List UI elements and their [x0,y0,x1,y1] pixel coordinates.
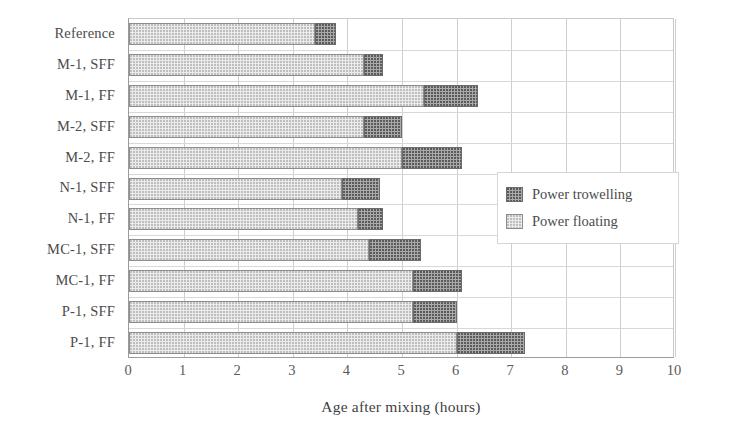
category-label: M-1, SFF [0,49,122,80]
bar-segment-power-trowelling [358,208,383,230]
bar-segment-power-floating [129,116,364,138]
legend-label-trowelling: Power trowelling [532,186,632,203]
category-label: M-2, FF [0,142,122,173]
x-axis-tick-labels: 012345678910 [128,362,674,386]
x-tick-label: 8 [561,362,568,379]
bar-segment-power-floating [129,270,413,292]
category-label: M-2, SFF [0,111,122,142]
chart-legend: Power trowelling Power floating [497,172,679,244]
x-tick-label: 1 [179,362,186,379]
bar-row [129,143,675,174]
bar-segment-power-floating [129,301,413,323]
bar-row [129,297,675,328]
bar-segment-power-floating [129,23,315,45]
category-label: N-1, SFF [0,173,122,204]
category-label: MC-1, SFF [0,234,122,265]
bar-segment-power-trowelling [369,239,421,261]
bar-segment-power-trowelling [342,178,380,200]
bar-segment-power-trowelling [402,147,462,169]
x-tick-label: 5 [397,362,404,379]
legend-item-floating: Power floating [506,208,672,235]
legend-label-floating: Power floating [532,213,618,230]
bar-chart-figure: ReferenceM-1, SFFM-1, FFM-2, SFFM-2, FFN… [0,0,735,446]
bar-segment-power-trowelling [413,301,457,323]
bar-row [129,328,675,359]
bar-segment-power-floating [129,208,358,230]
category-label: M-1, FF [0,80,122,111]
bar-segment-power-floating [129,178,342,200]
bar-row [129,50,675,81]
category-label: Reference [0,18,122,49]
bar-row [129,19,675,50]
bar-segment-power-trowelling [315,23,337,45]
bar-segment-power-floating [129,239,369,261]
bar-segment-power-trowelling [413,270,462,292]
x-tick-label: 10 [667,362,682,379]
bar-segment-power-trowelling [364,54,383,76]
bar-row [129,81,675,112]
x-tick-label: 7 [507,362,514,379]
bar-segment-power-floating [129,85,424,107]
bar-segment-power-floating [129,54,364,76]
x-tick-label: 4 [343,362,350,379]
bar-segment-power-floating [129,332,457,354]
bar-segment-power-floating [129,147,402,169]
x-tick-label: 6 [452,362,459,379]
x-tick-label: 9 [616,362,623,379]
dark-hatched-swatch-icon [506,187,523,202]
bar-row [129,266,675,297]
category-label: P-1, SFF [0,296,122,327]
x-tick-label: 3 [288,362,295,379]
x-axis-title: Age after mixing (hours) [128,398,674,416]
x-tick-label: 0 [124,362,131,379]
bar-row [129,112,675,143]
category-axis-labels: ReferenceM-1, SFFM-1, FFM-2, SFFM-2, FFN… [0,18,122,358]
category-label: P-1, FF [0,327,122,358]
bar-segment-power-trowelling [457,332,525,354]
category-label: MC-1, FF [0,265,122,296]
category-label: N-1, FF [0,203,122,234]
x-tick-label: 2 [234,362,241,379]
bar-segment-power-trowelling [364,116,402,138]
legend-item-trowelling: Power trowelling [506,181,672,208]
light-dotted-swatch-icon [506,214,523,229]
bar-segment-power-trowelling [424,85,479,107]
